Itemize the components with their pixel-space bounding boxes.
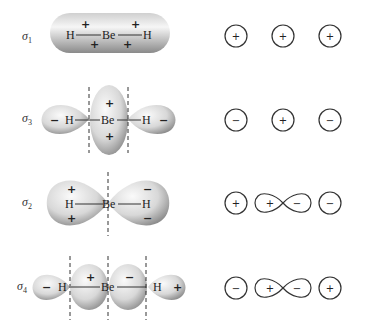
atom-h-left: H (65, 197, 74, 211)
atom-h-right: H (143, 28, 152, 42)
sign-label: − (42, 281, 51, 294)
symbol-sign: + (266, 198, 274, 209)
atom-be: Be (101, 113, 114, 127)
sign-label: + (86, 271, 95, 284)
row-sigma4: σ4 H Be H − + − + − + − + (17, 256, 341, 320)
mo-diagram: σ1 H Be H + + + + + + + σ3 H Be H − + + … (0, 0, 365, 331)
atom-h-left: H (66, 28, 75, 42)
sign-label: − (159, 114, 168, 127)
symbol-sign: − (326, 115, 334, 126)
label-sigma1: σ1 (22, 29, 32, 45)
symbol-sign: + (266, 283, 274, 294)
row-sigma1: σ1 H Be H + + + + + + + (22, 13, 341, 53)
p-orbital-symbol (255, 279, 311, 297)
sign-label: + (67, 183, 76, 196)
symbol-sign: + (279, 115, 287, 126)
sign-label: + (105, 97, 114, 110)
symbol-sign: − (293, 283, 301, 294)
sign-label: + (90, 38, 99, 51)
sign-label: + (81, 18, 90, 31)
symbol-sign: + (326, 283, 334, 294)
symbol-sign: − (232, 283, 240, 294)
sign-label: + (123, 38, 132, 51)
atom-be: Be (101, 280, 114, 294)
atom-h-right: H (142, 197, 151, 211)
symbol-sign: − (326, 198, 334, 209)
sign-label: + (131, 18, 140, 31)
symbol-sign: + (326, 31, 334, 42)
p-orbital-symbol (255, 194, 311, 212)
row-sigma3: σ3 H Be H − + + − − + − (22, 85, 341, 155)
orbital-lobe (47, 181, 108, 226)
sign-label: + (173, 281, 182, 294)
orbital-lobe (108, 181, 169, 226)
symbol-sign: + (232, 31, 240, 42)
label-sigma2: σ2 (22, 195, 32, 211)
symbol-sign: + (232, 198, 240, 209)
atom-be: Be (102, 197, 115, 211)
symbol-sign: − (293, 198, 301, 209)
atom-h-left: H (65, 113, 74, 127)
sign-label: − (143, 212, 152, 225)
atom-h-left: H (58, 280, 67, 294)
label-sigma4: σ4 (17, 279, 27, 295)
sign-label: + (105, 130, 114, 143)
symbol-sign: − (232, 115, 240, 126)
label-sigma3: σ3 (22, 111, 32, 127)
row-sigma2: σ2 H Be H + + − − + + − − (22, 172, 341, 236)
sign-label: − (143, 183, 152, 196)
sign-label: − (125, 271, 134, 284)
sign-label: − (50, 114, 59, 127)
atom-h-right: H (142, 113, 151, 127)
sign-label: + (67, 212, 76, 225)
atom-be: Be (102, 28, 115, 42)
atom-h-right: H (153, 280, 162, 294)
symbol-sign: + (279, 31, 287, 42)
